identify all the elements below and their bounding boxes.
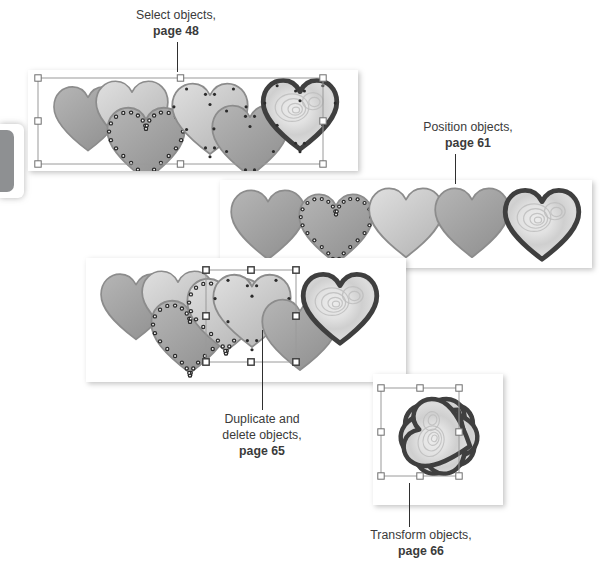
callout-page-reference[interactable]: page 66 [336,544,506,560]
callout-line-2: delete objects, [182,428,342,444]
selection-handle[interactable] [293,267,299,273]
heart-shape[interactable] [231,190,305,259]
selection-handle[interactable] [456,473,462,479]
callout-leader-line [177,42,178,72]
selection-screenshot-canvas [28,70,358,171]
transform-screenshot-canvas [373,374,503,505]
callout-page-reference[interactable]: page 61 [388,136,548,152]
selection-handle[interactable] [378,385,384,391]
page-edge-tab [0,130,14,192]
heart-shape[interactable] [299,194,374,267]
selection-handle[interactable] [177,75,183,81]
heart-path[interactable] [299,194,373,263]
heart-shape[interactable] [369,188,443,257]
duplicate-delete-screenshot[interactable] [86,258,406,382]
callout-line-1: Duplicate and [182,412,342,428]
selection-handle[interactable] [293,359,299,365]
callout-transform-objects: Transform objects,page 66 [336,528,506,560]
callout-leader-line [455,154,456,184]
callout-line-1: Transform objects, [336,528,506,544]
selection-handle[interactable] [203,267,209,273]
callout-duplicate-delete-objects: Duplicate anddelete objects,page 65 [182,412,342,460]
heart-path[interactable] [369,188,443,257]
selection-handle[interactable] [203,313,209,319]
selection-handle[interactable] [35,75,41,81]
selection-handle[interactable] [248,359,254,365]
selection-handle[interactable] [320,161,326,167]
duplicate-delete-screenshot-canvas [86,258,406,382]
selection-screenshot[interactable] [28,70,358,171]
callout-leader-line [409,483,410,527]
selection-handle[interactable] [177,161,183,167]
selection-handle[interactable] [417,385,423,391]
selection-handle[interactable] [378,429,384,435]
selection-handle[interactable] [35,118,41,124]
callout-select-objects: Select objects,page 48 [96,8,256,40]
callout-position-objects: Position objects,page 61 [388,120,548,152]
callout-line-1: Select objects, [96,8,256,24]
callout-line-1: Position objects, [388,120,548,136]
selection-handle[interactable] [293,313,299,319]
heart-path[interactable] [505,190,579,259]
callout-page-reference[interactable]: page 48 [96,24,256,40]
heart-shape[interactable] [435,188,509,257]
selection-handle[interactable] [378,473,384,479]
selection-handle[interactable] [203,359,209,365]
position-screenshot-canvas [220,180,592,268]
selection-handle[interactable] [320,118,326,124]
heart-path[interactable] [231,190,305,259]
position-screenshot[interactable] [220,180,592,268]
heart-shape[interactable] [505,190,579,259]
callout-page-reference[interactable]: page 65 [182,444,342,460]
selection-handle[interactable] [417,473,423,479]
selection-handle[interactable] [248,267,254,273]
selection-handle[interactable] [456,385,462,391]
selection-handle[interactable] [35,161,41,167]
selection-handle[interactable] [320,75,326,81]
callout-leader-line [262,330,263,410]
selection-handle[interactable] [456,429,462,435]
heart-path[interactable] [435,188,509,257]
transform-screenshot[interactable] [373,374,503,505]
figure-canvas: Select objects,page 48Position objects,p… [0,0,609,571]
